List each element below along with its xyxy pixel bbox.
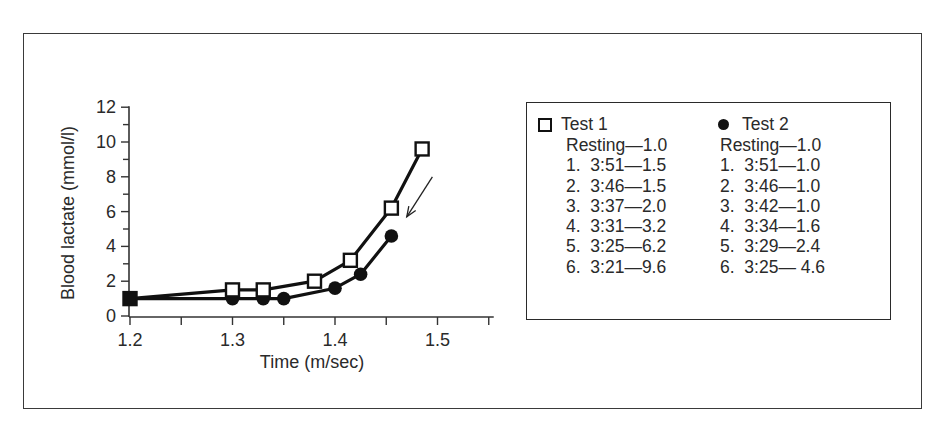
data-point-square [257,283,270,296]
series-line-test-1 [130,149,422,299]
x-tick-label: 1.3 [220,330,245,350]
legend-test1: Test 1 Resting—1.0 1. 3:51—1.5 2. 3:46—1… [538,114,667,277]
annotation-arrow-shaft [407,177,433,217]
data-point-square [385,202,398,215]
data-point-circle [277,292,291,306]
legend-row: 2. 3:46—1.0 [720,176,825,196]
x-axis-title: Time (m/sec) [260,352,364,372]
data-point-circle [385,229,399,243]
legend-row: 5. 3:29—2.4 [720,236,825,256]
data-point-square [416,142,429,155]
chart-series-markers [123,142,428,305]
y-tick-label: 0 [106,306,116,326]
legend-row: 4. 3:34—1.6 [720,216,825,236]
x-tick-label: 1.5 [425,330,450,350]
data-point-square [344,254,357,267]
legend-row: 4. 3:31—3.2 [566,216,667,236]
legend-row: 3. 3:42—1.0 [720,196,825,216]
legend-row: 1. 3:51—1.5 [566,155,667,175]
y-tick-label: 6 [106,202,116,222]
filled-circle-marker-icon [718,119,729,130]
data-point-square [124,292,137,305]
legend-row: Resting—1.0 [720,135,825,155]
legend-row: 1. 3:51—1.0 [720,155,825,175]
legend-row: 6. 3:21—9.6 [566,257,667,277]
x-tick-label: 1.4 [322,330,347,350]
data-point-circle [328,281,342,295]
x-tick-label: 1.2 [117,330,142,350]
chart-annotations [407,177,433,217]
data-point-square [226,283,239,296]
legend: Test 1 Resting—1.0 1. 3:51—1.5 2. 3:46—1… [526,102,891,320]
legend-test1-title: Test 1 [561,114,608,134]
y-tick-label: 12 [96,97,116,117]
legend-row: 3. 3:37—2.0 [566,196,667,216]
y-axis-title: Blood lactate (mmol/l) [58,126,78,300]
annotation-arrow-head-icon [407,206,416,217]
legend-row: Resting—1.0 [566,135,667,155]
legend-test2-title: Test 2 [742,114,789,134]
legend-test2: Test 2 Resting—1.0 1. 3:51—1.0 2. 3:46—1… [716,114,825,277]
data-point-circle [354,267,368,281]
chart-axes: 1.21.31.41.5024681012 [96,97,494,350]
y-tick-label: 4 [106,236,116,256]
legend-row: 2. 3:46—1.5 [566,176,667,196]
chart-series-lines [130,149,422,299]
y-tick-label: 2 [106,271,116,291]
open-square-marker-icon [538,118,552,132]
data-point-square [308,275,321,288]
legend-row: 6. 3:25— 4.6 [720,257,825,277]
y-tick-label: 10 [96,132,116,152]
legend-row: 5. 3:25—6.2 [566,236,667,256]
y-tick-label: 8 [106,167,116,187]
